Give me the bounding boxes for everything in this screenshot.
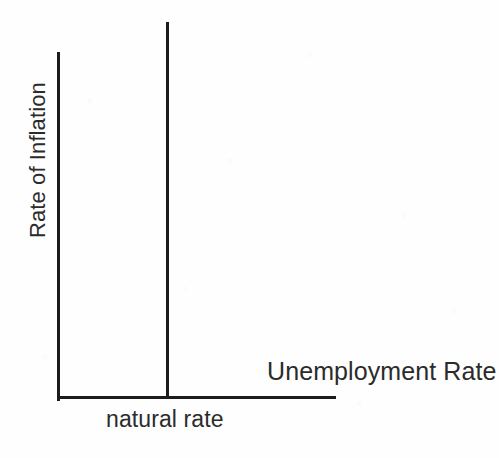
long-run-phillips-curve-line — [166, 22, 169, 399]
y-axis-label: Rate of Inflation — [28, 218, 206, 238]
natural-rate-label: natural rate — [106, 406, 224, 433]
x-axis-label: Unemployment Rate — [267, 357, 497, 386]
phillips-curve-figure: Rate of Inflation Unemployment Rate natu… — [0, 0, 499, 458]
x-axis-line — [57, 396, 336, 399]
